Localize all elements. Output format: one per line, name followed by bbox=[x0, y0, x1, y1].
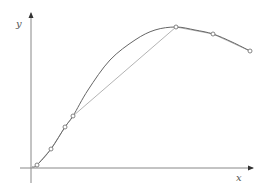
sample-point bbox=[211, 32, 215, 36]
sample-point bbox=[248, 49, 252, 53]
sample-point bbox=[35, 163, 39, 167]
function-plot: x y bbox=[0, 0, 275, 191]
x-axis-label: x bbox=[236, 172, 242, 183]
sample-point bbox=[49, 147, 53, 151]
sample-point bbox=[63, 125, 67, 129]
chord-polyline bbox=[37, 27, 250, 165]
y-axis-label: y bbox=[15, 18, 22, 29]
function-curve bbox=[32, 27, 250, 167]
sample-point bbox=[71, 114, 75, 118]
axes: x y bbox=[15, 13, 253, 183]
sample-point bbox=[174, 25, 178, 29]
sample-points bbox=[35, 25, 252, 167]
